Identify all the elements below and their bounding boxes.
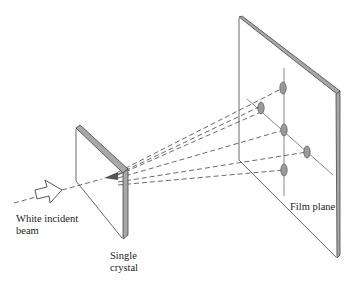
beam-label: White incident beam [16, 213, 78, 237]
incident-beam-arrow-icon [35, 180, 62, 203]
crystal-label: Single crystal [110, 250, 138, 274]
laue-spot [258, 102, 264, 114]
laue-spot [304, 146, 310, 158]
laue-spot [281, 164, 287, 176]
laue-spot [281, 124, 287, 136]
laue-diagram: White incident beam Single crystal Film … [0, 0, 354, 284]
diffracted-beams [118, 88, 307, 185]
laue-spot [280, 82, 286, 94]
diagram-canvas [0, 0, 354, 284]
film-plane-label: Film plane [290, 201, 335, 213]
incident-beam [14, 172, 118, 203]
film-plane [239, 16, 340, 258]
